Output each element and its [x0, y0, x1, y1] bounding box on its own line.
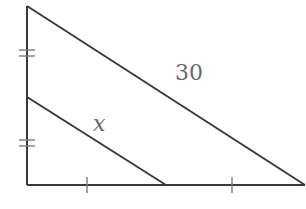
- hypotenuse-label: 30: [175, 60, 203, 85]
- triangle-diagram: 30 x: [0, 0, 306, 209]
- outer-hypotenuse: [27, 6, 305, 185]
- inner-segment-label: x: [93, 111, 106, 136]
